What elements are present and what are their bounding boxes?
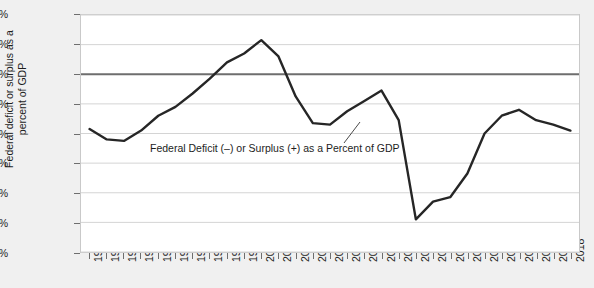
- x-tick-mark: [261, 253, 262, 259]
- y-tick-label: -6%: [0, 158, 8, 168]
- y-tick-label: -4%: [0, 129, 8, 139]
- x-tick-mark: [571, 253, 572, 259]
- plot-area: [80, 14, 580, 253]
- x-tick-mark: [468, 253, 469, 259]
- x-tick-mark: [485, 253, 486, 259]
- x-tick-mark: [330, 253, 331, 259]
- series-line-federal-deficit-surplus: [81, 15, 579, 252]
- x-tick-mark: [244, 253, 245, 259]
- chart-root: Federal deficit or surplus as a percent …: [0, 0, 594, 288]
- x-tick-mark: [451, 253, 452, 259]
- x-tick-mark: [227, 253, 228, 259]
- x-tick-mark: [502, 253, 503, 259]
- x-tick-mark: [192, 253, 193, 259]
- x-tick-mark: [554, 253, 555, 259]
- x-tick-mark: [520, 253, 521, 259]
- x-tick-mark: [123, 253, 124, 259]
- x-tick-mark: [158, 253, 159, 259]
- x-tick-mark: [313, 253, 314, 259]
- y-tick-label: -12%: [0, 248, 8, 258]
- y-tick-label: 2%: [0, 39, 8, 49]
- x-tick-mark: [382, 253, 383, 259]
- x-tick-mark: [364, 253, 365, 259]
- y-tick-label: 4%: [0, 9, 8, 19]
- x-tick-mark: [537, 253, 538, 259]
- y-tick-label: 0%: [0, 69, 8, 79]
- x-tick-mark: [140, 253, 141, 259]
- y-tick-label: -8%: [0, 188, 8, 198]
- x-tick-mark: [175, 253, 176, 259]
- x-tick-mark: [416, 253, 417, 259]
- x-tick-mark: [106, 253, 107, 259]
- y-tick-mark: [74, 253, 80, 254]
- x-tick-mark: [433, 253, 434, 259]
- x-tick-mark: [89, 253, 90, 259]
- y-tick-label: -2%: [0, 99, 8, 109]
- x-tick-mark: [209, 253, 210, 259]
- series-annotation-label: Federal Deficit (–) or Surplus (+) as a …: [150, 142, 399, 154]
- y-tick-label: -10%: [0, 218, 8, 228]
- x-tick-mark: [399, 253, 400, 259]
- x-tick-mark: [278, 253, 279, 259]
- data-line: [90, 40, 571, 219]
- x-tick-mark: [347, 253, 348, 259]
- x-tick-mark: [296, 253, 297, 259]
